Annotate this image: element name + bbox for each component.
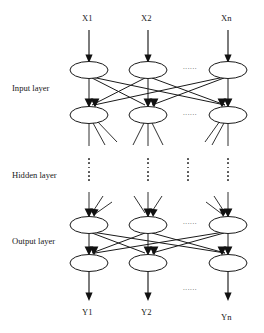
neuron-row-output-1: [70, 217, 247, 234]
vertical-ellipsis: [147, 158, 149, 181]
vertical-ellipsis: [227, 158, 229, 181]
input-label-x1: X1: [82, 14, 93, 23]
input-label-xn: Xn: [221, 14, 232, 23]
neuron-node: [70, 107, 108, 124]
neuron-row-input-2: [70, 107, 247, 124]
layer-label-input: Input layer: [12, 84, 49, 93]
output-label-yn: Yn: [221, 313, 232, 322]
layer-label-output: Output layer: [12, 237, 55, 246]
vertical-ellipsis: [88, 158, 90, 181]
horizontal-ellipsis: ......: [183, 110, 197, 117]
horizontal-ellipsis: ......: [183, 219, 197, 226]
neuron-node: [70, 217, 108, 234]
input-fanout-group: [89, 121, 228, 146]
horizontal-ellipsis: ......: [183, 285, 197, 292]
neuron-node: [129, 217, 167, 234]
neuron-node: [209, 255, 247, 272]
neural-network-diagram: X1 X2 Xn Y1 Y2 Yn Input layer Hidden lay…: [0, 0, 264, 333]
output-fanin-group: [85, 192, 233, 218]
neuron-node: [70, 255, 108, 272]
output-label-y2: Y2: [141, 308, 152, 317]
layer-label-hidden: Hidden layer: [12, 171, 57, 180]
output-stem-group: [85, 272, 231, 302]
neuron-node: [209, 107, 247, 124]
output-connection-group: [85, 233, 233, 256]
neuron-node: [209, 217, 247, 234]
input-stem-group: [85, 30, 231, 63]
neuron-row-input-1: [70, 62, 247, 79]
neuron-node: [129, 255, 167, 272]
network-graphic: [0, 0, 264, 333]
vertical-ellipsis: [187, 158, 189, 181]
input-label-x2: X2: [141, 14, 152, 23]
input-connection-group: [85, 78, 233, 108]
output-label-y1: Y1: [82, 308, 93, 317]
neuron-row-output-2: [70, 255, 247, 272]
neuron-node: [209, 62, 247, 79]
neuron-node: [129, 107, 167, 124]
horizontal-ellipsis: ......: [183, 64, 197, 71]
neuron-node: [70, 62, 108, 79]
neuron-node: [129, 62, 167, 79]
